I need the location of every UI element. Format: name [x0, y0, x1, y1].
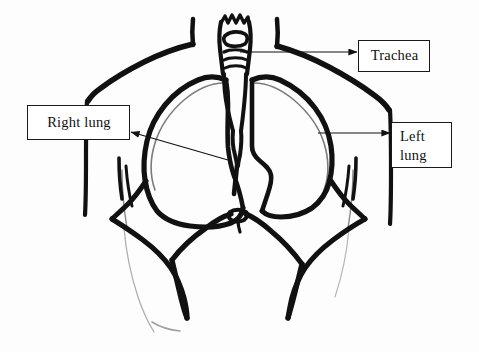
trachea-ring-1	[224, 58, 247, 60]
diagram-canvas: Trachea Right lung Left lung	[0, 0, 479, 352]
neck-right-line	[277, 19, 278, 47]
label-box-left-lung: Left lung	[391, 122, 452, 168]
larynx-top-jagged	[221, 15, 249, 23]
trachea-ring-2	[225, 66, 246, 68]
bronchus-right-main	[233, 131, 237, 166]
label-text-trachea: Trachea	[371, 46, 419, 65]
label-box-trachea: Trachea	[358, 40, 430, 72]
right-lung-sketch-line	[151, 83, 224, 190]
label-box-right-lung: Right lung	[27, 105, 130, 140]
left-lung-sketch-line	[254, 83, 328, 190]
left-lung-cardiac-notch	[252, 80, 271, 211]
neck-left-line	[192, 19, 193, 45]
trachea-shaft-right	[241, 74, 246, 131]
ghost-line-bottom-left	[152, 322, 180, 331]
diaphragm-left-slope	[172, 214, 231, 260]
bronchus-left-main	[238, 131, 241, 166]
thyroid-cartilage	[224, 32, 248, 46]
label-text-left-lung: Left lung	[400, 127, 427, 164]
diaphragm-right-slope	[246, 214, 302, 264]
larynx-left-wall	[219, 22, 223, 74]
larynx-right-wall	[247, 22, 251, 74]
costophrenic-angle-left	[172, 260, 187, 318]
label-text-right-lung: Right lung	[47, 113, 111, 132]
